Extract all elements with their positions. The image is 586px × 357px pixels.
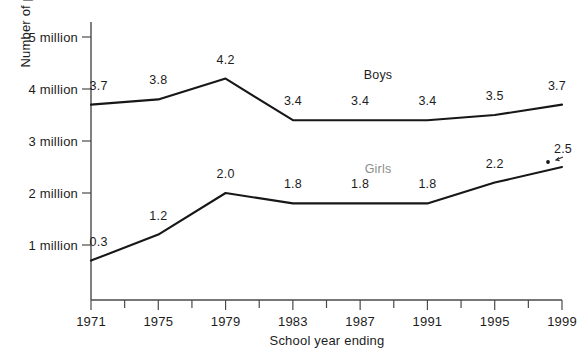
y-tick-label: 5 million bbox=[0, 30, 78, 45]
series-label-girls: Girls bbox=[365, 162, 392, 176]
point-label-boys: 3.5 bbox=[486, 89, 504, 103]
x-tick-label: 1975 bbox=[143, 314, 173, 329]
x-tick-label: 1999 bbox=[547, 314, 577, 329]
point-label-boys: 3.4 bbox=[284, 94, 302, 108]
point-label-boys: 3.7 bbox=[90, 79, 108, 93]
point-label-girls: 2.5 bbox=[554, 142, 572, 156]
x-tick-label: 1991 bbox=[413, 314, 443, 329]
girls-endpoint-dot bbox=[546, 160, 550, 164]
point-label-boys: 4.2 bbox=[217, 53, 235, 67]
point-label-boys: 3.4 bbox=[418, 94, 436, 108]
x-tick-label: 1979 bbox=[211, 314, 241, 329]
x-axis-title: School year ending bbox=[270, 333, 385, 348]
series-label-boys: Boys bbox=[364, 68, 393, 82]
point-label-boys: 3.4 bbox=[351, 94, 369, 108]
point-label-girls: 0.3 bbox=[90, 235, 108, 249]
point-label-girls: 2.2 bbox=[486, 157, 504, 171]
line-chart: 5 million4 million3 million2 million1 mi… bbox=[0, 0, 586, 357]
point-label-girls: 2.0 bbox=[217, 167, 235, 181]
y-tick-label: 2 million bbox=[0, 186, 78, 201]
point-label-boys: 3.8 bbox=[149, 73, 167, 87]
girls-endpoint-callout bbox=[546, 157, 563, 164]
x-tick-label: 1995 bbox=[480, 314, 510, 329]
point-label-girls: 1.2 bbox=[149, 209, 167, 223]
x-tick-label: 1987 bbox=[345, 314, 375, 329]
y-tick-label: 1 million bbox=[0, 238, 78, 253]
point-label-girls: 1.8 bbox=[284, 177, 302, 191]
y-tick-label: 4 million bbox=[0, 82, 78, 97]
point-label-boys: 3.7 bbox=[548, 79, 566, 93]
point-label-girls: 1.8 bbox=[351, 177, 369, 191]
x-axis-ticks bbox=[91, 300, 562, 310]
y-axis-title: Number of participants bbox=[18, 0, 33, 68]
point-label-girls: 1.8 bbox=[418, 177, 436, 191]
y-tick-label: 3 million bbox=[0, 134, 78, 149]
x-tick-label: 1983 bbox=[278, 314, 308, 329]
x-tick-label: 1971 bbox=[76, 314, 106, 329]
y-axis-ticks bbox=[82, 37, 91, 245]
